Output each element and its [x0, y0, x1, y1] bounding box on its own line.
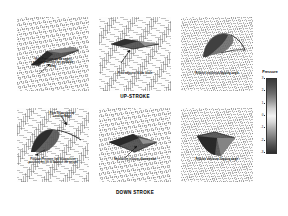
downstroke-panel-1: Flow Separation at Leading Edge Positive…	[17, 108, 89, 182]
annotation-text: Relative maximum flapping angle	[185, 72, 249, 75]
pressure-colorbar: Pressure 3210-1-2-3	[253, 70, 287, 162]
downstroke-panel-2: Separation initiates downstream	[99, 108, 171, 182]
colorbar-tick-mark	[264, 127, 266, 128]
downstroke-panel-3: Relative minimum flapping angle	[181, 108, 253, 182]
downstroke-row-label: DOWN STROKE	[99, 190, 171, 195]
colorbar-tick-mark	[264, 152, 266, 153]
annotation-text: Relative minimum flapping angle	[184, 158, 250, 161]
colorbar-tick: 3	[262, 76, 264, 80]
wing-surface-plot	[17, 17, 89, 91]
annotation-text-leading-edge: Flow Separation at Leading Edge	[39, 112, 85, 119]
colorbar-tick: -1	[261, 125, 264, 129]
colorbar-title: Pressure	[253, 70, 287, 74]
colorbar-tick-mark	[264, 78, 266, 79]
colorbar-tick: 2	[262, 88, 264, 92]
flapping-wing-pressure-figure: High Pressure on the upper surface produ…	[0, 0, 288, 216]
annotation-text: Positive Pressure link to impulsive posi…	[18, 158, 88, 165]
colorbar-tick-labels: 3210-1-2-3	[253, 78, 265, 152]
colorbar-tick: 1	[262, 101, 264, 105]
wing-surface-plot	[181, 108, 253, 182]
upstroke-panel-2: Fluid adjacent to the blade	[99, 17, 171, 91]
upstroke-row-label: UP-STROKE	[99, 94, 171, 99]
colorbar-tick-mark	[264, 90, 266, 91]
annotation-text: High Pressure on the upper surface produ…	[21, 58, 85, 68]
upstroke-panel-3: Relative maximum flapping angle	[181, 17, 253, 91]
wing-surface-plot	[181, 17, 253, 91]
colorbar-tick-mark	[264, 103, 266, 104]
annotation-text: Separation initiates downstream	[103, 158, 167, 161]
colorbar-tick: -2	[261, 138, 264, 142]
colorbar-tick-mark	[264, 115, 266, 116]
wing-surface-plot	[99, 108, 171, 182]
colorbar-gradient	[266, 78, 277, 154]
wing-surface-plot	[17, 108, 89, 182]
colorbar-tick: 0	[262, 113, 264, 117]
wing-surface-plot	[99, 17, 171, 91]
annotation-text: Fluid adjacent to the blade	[103, 72, 167, 75]
upstroke-panel-1: High Pressure on the upper surface produ…	[17, 17, 89, 91]
colorbar-tick: -3	[261, 150, 264, 154]
colorbar-tick-mark	[264, 140, 266, 141]
